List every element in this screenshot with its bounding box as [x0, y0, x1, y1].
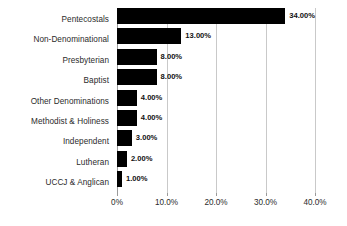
category-label: Non-Denominational	[0, 32, 109, 48]
axis-tick-mark	[117, 193, 118, 196]
category-label: Methodist & Holiness	[0, 114, 109, 130]
bar[interactable]	[117, 130, 132, 146]
category-label: Independent	[0, 134, 109, 150]
bar-value-label: 34.00%	[289, 8, 315, 24]
bar-value-label: 4.00%	[141, 90, 163, 106]
bar-row[interactable]: 13.00%	[117, 28, 315, 44]
bar-row[interactable]: 8.00%	[117, 49, 315, 65]
axis-tick-label: 40.0%	[290, 198, 340, 207]
bar[interactable]	[117, 28, 181, 44]
bar-value-label: 2.00%	[131, 151, 153, 167]
bar[interactable]	[117, 171, 122, 187]
bar[interactable]	[117, 8, 285, 24]
bar-row[interactable]: 4.00%	[117, 90, 315, 106]
axis-tick-label: 0%	[92, 198, 142, 207]
category-label: Baptist	[0, 73, 109, 89]
bar[interactable]	[117, 110, 137, 126]
gridline	[315, 8, 316, 193]
bar-value-label: 8.00%	[161, 69, 183, 85]
axis-tick-mark	[216, 193, 217, 196]
bar-row[interactable]: 4.00%	[117, 110, 315, 126]
bar-value-label: 13.00%	[185, 28, 211, 44]
axis-tick-mark	[167, 193, 168, 196]
axis-tick-mark	[266, 193, 267, 196]
bar-value-label: 3.00%	[136, 130, 158, 146]
axis-tick-label: 20.0%	[191, 198, 241, 207]
axis-tick-label: 30.0%	[241, 198, 291, 207]
bar-value-label: 4.00%	[141, 110, 163, 126]
category-label: Lutheran	[0, 155, 109, 171]
bar[interactable]	[117, 90, 137, 106]
bar[interactable]	[117, 151, 127, 167]
bar[interactable]	[117, 69, 157, 85]
category-axis: PentecostalsNon-DenominationalPresbyteri…	[0, 10, 113, 193]
category-label: Other Denominations	[0, 94, 109, 110]
bar-chart: PentecostalsNon-DenominationalPresbyteri…	[0, 0, 347, 226]
bar[interactable]	[117, 49, 157, 65]
axis-tick-label: 10.0%	[142, 198, 192, 207]
category-label: Pentecostals	[0, 12, 109, 28]
category-label: Presbyterian	[0, 53, 109, 69]
bar-row[interactable]: 1.00%	[117, 171, 315, 187]
value-axis: 0%10.0%20.0%30.0%40.0%	[117, 193, 315, 213]
plot-area: 34.00%13.00%8.00%8.00%4.00%4.00%3.00%2.0…	[117, 8, 315, 193]
bar-value-label: 8.00%	[161, 49, 183, 65]
bar-value-label: 1.00%	[126, 171, 148, 187]
bar-row[interactable]: 3.00%	[117, 130, 315, 146]
bar-row[interactable]: 34.00%	[117, 8, 315, 24]
axis-tick-mark	[315, 193, 316, 196]
bar-row[interactable]: 8.00%	[117, 69, 315, 85]
category-label: UCCJ & Anglican	[0, 175, 109, 191]
bar-row[interactable]: 2.00%	[117, 151, 315, 167]
